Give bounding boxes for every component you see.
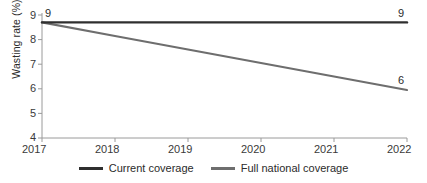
chart-legend: Current coverage Full national coverage (0, 162, 427, 174)
plot-area (0, 0, 427, 183)
legend-item-current-coverage: Current coverage (79, 162, 194, 174)
legend-label-full: Full national coverage (241, 162, 349, 174)
wasting-rate-line-chart: Wasting rate (%) 9 8 7 6 5 4 2017 2018 2… (0, 0, 427, 183)
legend-swatch-icon-current (79, 167, 103, 170)
legend-label-current: Current coverage (109, 162, 194, 174)
series-line-full-national-coverage (42, 22, 407, 90)
legend-item-full-national-coverage: Full national coverage (211, 162, 349, 174)
legend-swatch-icon-full (211, 167, 235, 170)
